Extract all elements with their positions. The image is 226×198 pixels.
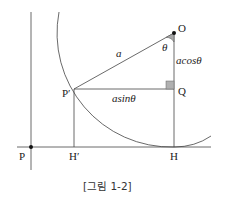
circular-arc [57, 12, 211, 147]
label-h: H [170, 150, 178, 162]
label-asin-theta: asinθ [112, 92, 136, 104]
label-o: O [178, 22, 186, 34]
figure-caption: [그림 1-2] [83, 180, 132, 192]
label-pprime: P′ [62, 87, 71, 99]
label-acos-theta: acosθ [176, 54, 202, 66]
point-o-dot [172, 31, 176, 35]
right-angle-marker [166, 81, 174, 89]
point-p-dot [29, 145, 33, 149]
diagram-canvas: O Q P′ P H′ H a θ acosθ asinθ [그림 1-2] [0, 0, 226, 198]
label-theta: θ [162, 41, 168, 53]
label-hprime: H′ [69, 150, 79, 162]
segment-o-pprime [74, 33, 174, 89]
label-a: a [116, 47, 122, 59]
label-q: Q [178, 85, 186, 97]
label-p: P [19, 150, 25, 162]
